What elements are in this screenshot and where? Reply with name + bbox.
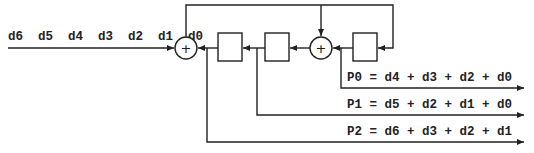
register-3 <box>353 33 377 61</box>
encoder-diagram: d6 d5 d4 d3 d2 d1 d0 + + P0 = d4 + d3 + … <box>0 0 534 153</box>
equation-p2: P2 = d6 + d3 + d2 + d1 <box>347 125 512 139</box>
input-sequence-label: d6 d5 d4 d3 d2 d1 d0 <box>8 30 203 44</box>
plus-icon: + <box>316 41 327 56</box>
register-1 <box>218 33 242 61</box>
xor-adder-1: + <box>175 37 197 59</box>
equation-p1: P1 = d5 + d2 + d1 + d0 <box>347 98 512 112</box>
register-2 <box>265 33 289 61</box>
equation-p0: P0 = d4 + d3 + d2 + d0 <box>347 71 512 85</box>
plus-icon: + <box>181 41 192 56</box>
xor-adder-2: + <box>310 37 332 59</box>
